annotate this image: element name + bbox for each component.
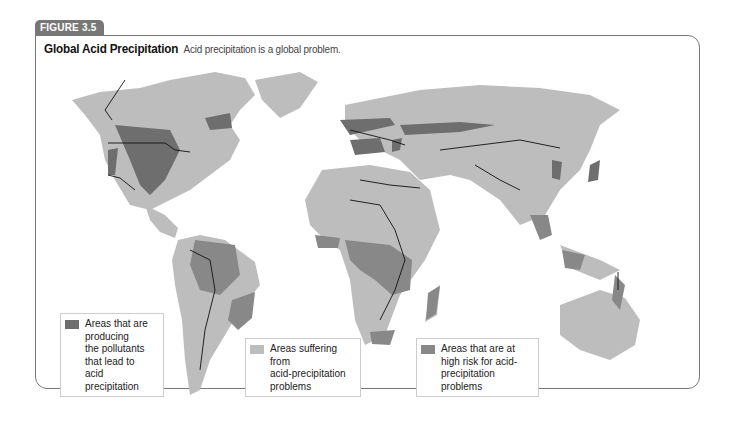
legend-swatch-high-risk bbox=[421, 345, 435, 354]
legend-swatch-producing bbox=[65, 320, 79, 329]
legend-label-suffering: Areas suffering from acid-precipitation … bbox=[270, 343, 354, 393]
legend-label-high-risk: Areas that are at high risk for acid- pr… bbox=[441, 343, 532, 393]
legend-item-suffering: Areas suffering from acid-precipitation … bbox=[245, 338, 361, 397]
legend-item-producing: Areas that are producing the pollutants … bbox=[60, 313, 164, 397]
legend-swatch-suffering bbox=[250, 345, 264, 354]
legend-label-producing: Areas that are producing the pollutants … bbox=[85, 318, 157, 393]
legend-item-high-risk: Areas that are at high risk for acid- pr… bbox=[416, 338, 539, 397]
